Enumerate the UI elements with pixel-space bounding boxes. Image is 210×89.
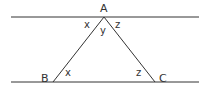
- angle-label-at-b: x: [65, 67, 71, 78]
- vertex-label-b: B: [41, 72, 49, 85]
- vertex-label-c: C: [159, 72, 167, 85]
- angle-label-top-right: z: [115, 19, 120, 30]
- side-ac: [104, 17, 155, 82]
- angle-label-top-middle: y: [100, 25, 106, 36]
- geometry-diagram: A B C x y z x z: [0, 0, 210, 89]
- side-ab: [53, 17, 104, 82]
- angle-label-top-left: x: [84, 19, 90, 30]
- vertex-label-a: A: [100, 2, 108, 15]
- angle-label-at-c: z: [136, 67, 141, 78]
